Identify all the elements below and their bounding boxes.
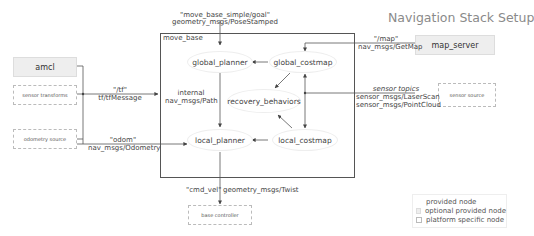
legend-swatch-provided [416, 199, 422, 205]
edge-map-type: nav_msgs/GetMap [358, 43, 414, 51]
node-global-costmap: global_costmap [269, 51, 337, 73]
edge-goal-label: "move_base_simple/goal" geometry_msgs/Po… [170, 11, 280, 26]
node-odometry-source-label: odometry source [24, 136, 66, 142]
move-base-label: move_base [163, 34, 203, 42]
edge-cmd-vel-topic: "cmd_vel" [186, 186, 218, 194]
edge-sensor-topic: sensor topics [356, 85, 436, 93]
edge-map-label: "/map" nav_msgs/GetMap [358, 35, 414, 51]
edge-odom-type: nav_msgs/Odometry [88, 144, 158, 152]
legend-item-optional: optional provided node [413, 206, 506, 215]
edge-goal-type: geometry_msgs/PoseStamped [170, 18, 280, 26]
node-global-planner-label: global_planner [192, 58, 247, 67]
edge-tf-label: "/tf" tf/tfMessage [90, 86, 150, 102]
node-local-planner: local_planner [187, 129, 253, 151]
legend-label-provided: provided node [426, 198, 476, 206]
node-amcl: amcl [13, 57, 77, 77]
node-sensor-transforms-label: sensor transforms [22, 92, 67, 98]
edge-odom-topic: "odom" [88, 136, 158, 144]
legend-swatch-optional [416, 208, 421, 214]
node-base-controller-label: base controller [201, 212, 238, 218]
node-base-controller: base controller [188, 205, 252, 225]
legend-item-provided: provided node [413, 197, 506, 206]
legend-label-platform: platform specific node [426, 216, 504, 224]
node-recovery-behaviors: recovery_behaviors [227, 89, 301, 113]
node-map-server-label: map_server [431, 41, 478, 50]
node-map-server: map_server [415, 35, 495, 55]
edge-tf-topic: "/tf" [90, 86, 150, 94]
legend-item-platform: platform specific node [413, 215, 506, 224]
node-sensor-source: sensor source [438, 83, 496, 107]
node-odometry-source: odometry source [13, 129, 77, 149]
legend-label-optional: optional provided node [425, 207, 506, 215]
node-global-planner: global_planner [187, 51, 253, 73]
node-local-costmap: local_costmap [272, 129, 338, 151]
diagram-title: Navigation Stack Setup [388, 10, 534, 25]
legend-swatch-platform [416, 217, 422, 223]
node-local-costmap-label: local_costmap [278, 136, 331, 145]
node-sensor-source-label: sensor source [450, 92, 485, 98]
edge-odom-label: "odom" nav_msgs/Odometry [88, 136, 158, 152]
edge-sensor-label: sensor topics sensor_msgs/LaserScan sens… [356, 85, 436, 109]
edge-sensor-type-laserscan: sensor_msgs/LaserScan [356, 93, 436, 101]
edge-internal-label: internal nav_msgs/Path [165, 89, 217, 105]
node-recovery-behaviors-label: recovery_behaviors [227, 97, 300, 106]
node-sensor-transforms: sensor transforms [13, 85, 77, 105]
node-amcl-label: amcl [35, 63, 54, 72]
edge-internal-line1: internal [165, 89, 217, 97]
node-global-costmap-label: global_costmap [274, 58, 333, 67]
edge-cmd-vel-type: geometry_msgs/Twist [223, 186, 303, 194]
legend: provided node optional provided node pla… [412, 194, 507, 228]
edge-internal-line2: nav_msgs/Path [165, 97, 217, 105]
edge-map-topic: "/map" [358, 35, 414, 43]
node-local-planner-label: local_planner [195, 136, 245, 145]
edge-tf-type: tf/tfMessage [90, 94, 150, 102]
edge-sensor-type-pointcloud: sensor_msgs/PointCloud [356, 101, 436, 109]
